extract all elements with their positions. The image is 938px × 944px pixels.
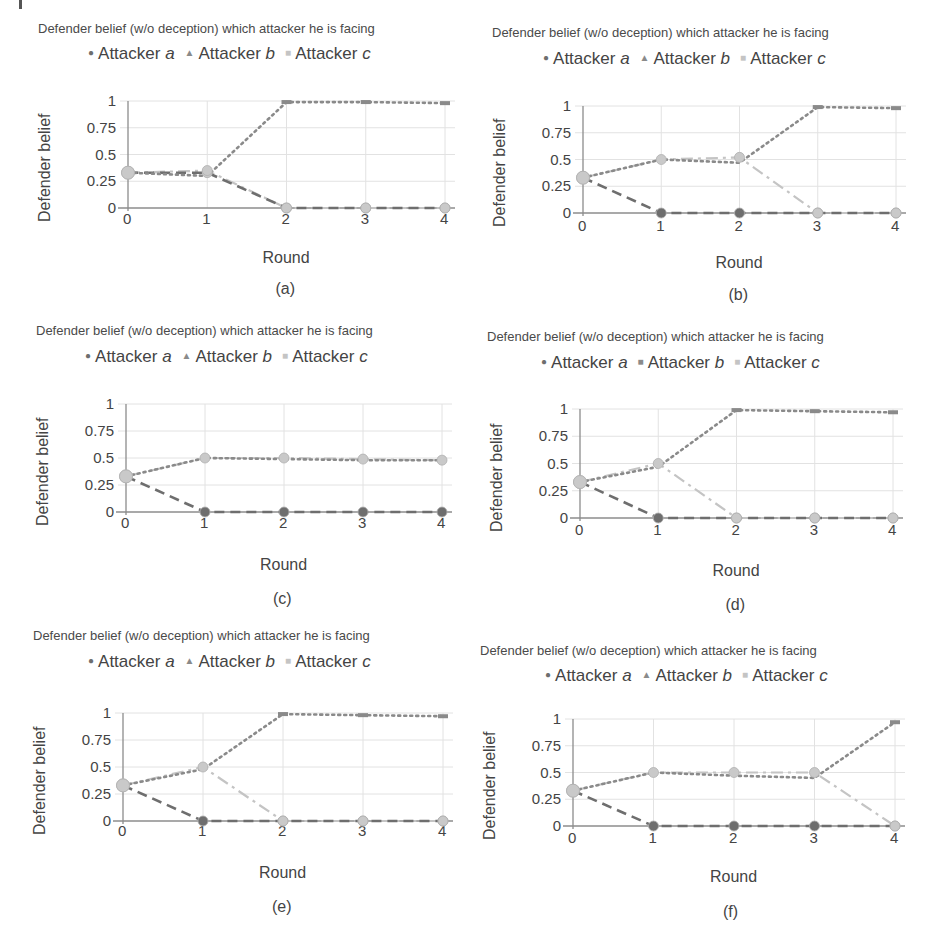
figure-caption: (b) — [729, 286, 749, 304]
legend: ●Attacker a■Attacker b■Attacker c — [541, 353, 820, 373]
circle-marker-icon: ● — [88, 47, 94, 58]
data-point-marker — [813, 105, 823, 109]
x-tick-label: 1 — [202, 210, 210, 227]
x-axis-label: Round — [716, 254, 763, 272]
data-point-marker — [810, 768, 820, 778]
legend-item-attacker-b: ▲Attacker b — [642, 666, 732, 686]
y-tick-label: 0.5 — [61, 758, 111, 775]
legend-item-attacker-a: ●Attacker a — [85, 347, 172, 367]
y-tick-label: 0.75 — [61, 731, 111, 748]
data-point-marker — [577, 171, 590, 184]
plot-area — [0, 0, 938, 944]
legend-item-attacker-b: ■Attacker b — [638, 353, 725, 373]
y-tick-label: 0.75 — [511, 737, 561, 754]
y-tick-label: 0 — [511, 817, 561, 834]
y-tick-label: 1 — [511, 710, 561, 727]
y-tick-label: 1 — [521, 97, 571, 114]
legend: ●Attacker a▲Attacker b■Attacker c — [88, 44, 371, 64]
x-tick-label: 4 — [438, 822, 446, 839]
series-line-attacker-a — [580, 482, 893, 518]
x-tick-label: 3 — [358, 514, 366, 531]
y-axis-label: Defender belief — [31, 726, 49, 835]
x-tick-label: 0 — [578, 217, 586, 234]
series-line-attacker-c — [128, 171, 445, 208]
legend-label: Attacker c — [750, 49, 826, 69]
x-tick-label: 4 — [890, 829, 898, 846]
data-point-marker — [891, 106, 901, 110]
y-tick-label: 0.25 — [511, 790, 561, 807]
series-line-attacker-a — [123, 785, 443, 821]
x-tick-label: 2 — [279, 514, 287, 531]
legend-item-attacker-b: ▲Attacker b — [182, 347, 272, 367]
chart-title: Defender belief (w/o deception) which at… — [38, 21, 375, 36]
legend-label: Attacker c — [744, 353, 820, 373]
x-tick-label: 2 — [729, 829, 737, 846]
data-point-marker — [279, 453, 289, 463]
data-point-marker — [117, 779, 130, 792]
y-tick-label: 1 — [61, 704, 111, 721]
data-point-marker — [567, 784, 580, 797]
data-point-marker — [358, 454, 368, 464]
data-point-marker — [202, 168, 212, 178]
y-tick-label: 0.5 — [511, 764, 561, 781]
x-tick-label: 3 — [813, 217, 821, 234]
y-tick-label: 0 — [66, 199, 116, 216]
square-marker-icon: ■ — [285, 655, 291, 666]
data-point-marker — [656, 155, 666, 165]
legend-item-attacker-c: ■Attacker c — [742, 666, 828, 686]
square-marker-icon: ■ — [638, 356, 644, 367]
plot-area — [0, 0, 938, 944]
legend-item-attacker-c: ■Attacker c — [285, 652, 371, 672]
data-point-marker — [358, 713, 368, 717]
legend-label: Attacker a — [553, 49, 630, 69]
x-tick-label: 4 — [437, 514, 445, 531]
y-tick-label: 0.75 — [66, 119, 116, 136]
y-axis-label: Defender belief — [488, 423, 506, 532]
figure-caption: (c) — [273, 590, 292, 608]
chart-title: Defender belief (w/o deception) which at… — [492, 25, 829, 40]
square-marker-icon: ■ — [742, 669, 748, 680]
x-tick-label: 1 — [656, 217, 664, 234]
data-point-marker — [567, 784, 580, 797]
x-tick-label: 0 — [568, 829, 576, 846]
data-point-marker — [653, 459, 663, 469]
legend-label: Attacker b — [199, 44, 276, 64]
plot-area — [0, 0, 938, 944]
x-tick-label: 2 — [282, 210, 290, 227]
x-tick-label: 0 — [123, 210, 131, 227]
legend-label: Attacker b — [656, 666, 733, 686]
data-point-marker — [282, 100, 292, 104]
data-point-marker — [198, 762, 208, 772]
x-axis-label: Round — [260, 556, 307, 574]
x-tick-label: 4 — [891, 217, 899, 234]
x-tick-label: 2 — [735, 217, 743, 234]
y-tick-label: 0 — [518, 509, 568, 526]
data-point-marker — [202, 166, 212, 176]
legend-label: Attacker a — [98, 652, 175, 672]
series-line-attacker-a — [583, 178, 896, 213]
legend: ●Attacker a▲Attacker b■Attacker c — [545, 666, 828, 686]
data-point-marker — [117, 779, 130, 792]
legend-item-attacker-b: ▲Attacker b — [185, 44, 275, 64]
y-tick-label: 0.5 — [518, 455, 568, 472]
legend-item-attacker-a: ●Attacker a — [541, 353, 628, 373]
series-line-attacker-b — [123, 714, 443, 785]
data-point-marker — [649, 768, 659, 778]
y-tick-label: 0.25 — [66, 172, 116, 189]
legend-label: Attacker c — [292, 347, 368, 367]
data-point-marker — [278, 712, 288, 716]
triangle-marker-icon: ▲ — [182, 350, 192, 361]
x-axis-label: Round — [259, 864, 306, 882]
x-tick-label: 4 — [440, 210, 448, 227]
data-point-marker — [440, 101, 450, 105]
legend: ●Attacker a▲Attacker b■Attacker c — [85, 347, 368, 367]
x-tick-label: 2 — [732, 521, 740, 538]
legend-item-attacker-a: ●Attacker a — [543, 49, 630, 69]
y-tick-label: 0.25 — [64, 476, 114, 493]
x-tick-label: 1 — [198, 822, 206, 839]
legend-label: Attacker a — [555, 666, 632, 686]
series-line-attacker-c — [126, 458, 442, 476]
series-line-attacker-b — [573, 722, 895, 791]
legend-label: Attacker a — [98, 44, 175, 64]
y-tick-label: 0.75 — [521, 124, 571, 141]
